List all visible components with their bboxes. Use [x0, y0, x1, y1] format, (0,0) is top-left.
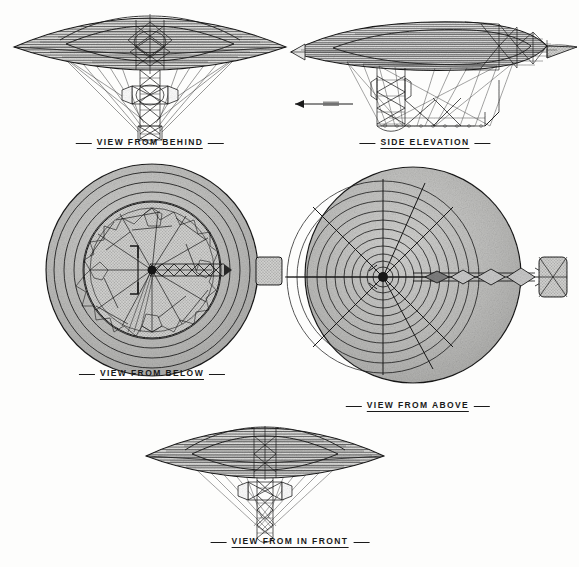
caption-text: SIDE ELEVATION: [380, 137, 469, 149]
caption-text: VIEW FROM ABOVE: [367, 400, 469, 412]
view-from-below-panel: VIEW FROM BELOW: [10, 160, 300, 390]
caption-view-from-behind: VIEW FROM BEHIND: [76, 137, 224, 149]
view-from-in-front-panel: VIEW FROM IN FRONT: [140, 418, 440, 563]
side-nacelle-pod: [256, 257, 282, 285]
side-elevation-panel: SIDE ELEVATION: [285, 0, 579, 150]
direction-arrow: [295, 100, 353, 108]
caption-dash-left: [346, 406, 362, 407]
caption-dash-right: [475, 143, 491, 144]
caption-side-elevation: SIDE ELEVATION: [359, 137, 490, 149]
caption-text: VIEW FROM IN FRONT: [232, 536, 349, 548]
view-from-behind-drawing: [0, 0, 300, 150]
caption-dash-right: [474, 406, 490, 407]
caption-text: VIEW FROM BELOW: [100, 368, 204, 380]
gondola-rigging: [347, 62, 513, 126]
suspension-mast: [238, 478, 292, 543]
view-from-above-drawing: [285, 165, 579, 410]
gondola-car: [371, 68, 411, 131]
caption-view-from-below: VIEW FROM BELOW: [79, 368, 225, 380]
view-from-below-drawing: [10, 160, 300, 390]
drawing-sheet: VIEW FROM BEHIND: [0, 0, 579, 567]
caption-dash-left: [359, 143, 375, 144]
caption-dash-left: [79, 374, 95, 375]
caption-view-from-in-front: VIEW FROM IN FRONT: [211, 536, 370, 548]
caption-dash-right: [208, 143, 224, 144]
rear-pod: [539, 257, 567, 297]
caption-text: VIEW FROM BEHIND: [97, 137, 203, 149]
view-from-above-panel: VIEW FROM ABOVE: [285, 165, 579, 410]
view-from-behind-panel: VIEW FROM BEHIND: [0, 0, 300, 150]
caption-dash-left: [211, 542, 227, 543]
caption-view-from-above: VIEW FROM ABOVE: [346, 400, 490, 412]
side-elevation-drawing: [285, 0, 579, 150]
caption-dash-right: [353, 542, 369, 543]
caption-dash-right: [209, 374, 225, 375]
suspension-mast: [122, 70, 178, 144]
hub: [378, 272, 388, 282]
caption-dash-left: [76, 143, 92, 144]
